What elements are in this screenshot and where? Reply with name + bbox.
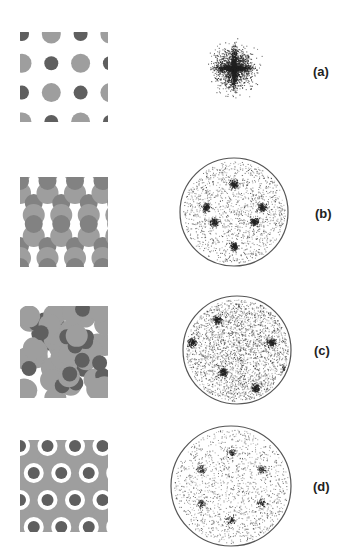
- real-space-pattern-c: [20, 306, 108, 398]
- panel-label-c: (c): [314, 343, 330, 358]
- real-space-pattern-d: [20, 440, 108, 532]
- diffraction-pattern-c: [180, 293, 294, 407]
- panel-label-b: (b): [315, 206, 332, 221]
- real-space-pattern-a: [20, 32, 108, 122]
- diffraction-pattern-a: [169, 3, 299, 133]
- diffraction-pattern-b: [177, 155, 291, 269]
- panel-label-a: (a): [313, 64, 329, 79]
- diffraction-pattern-d: [168, 423, 294, 549]
- panel-label-d: (d): [313, 479, 330, 494]
- real-space-pattern-b: [20, 177, 108, 267]
